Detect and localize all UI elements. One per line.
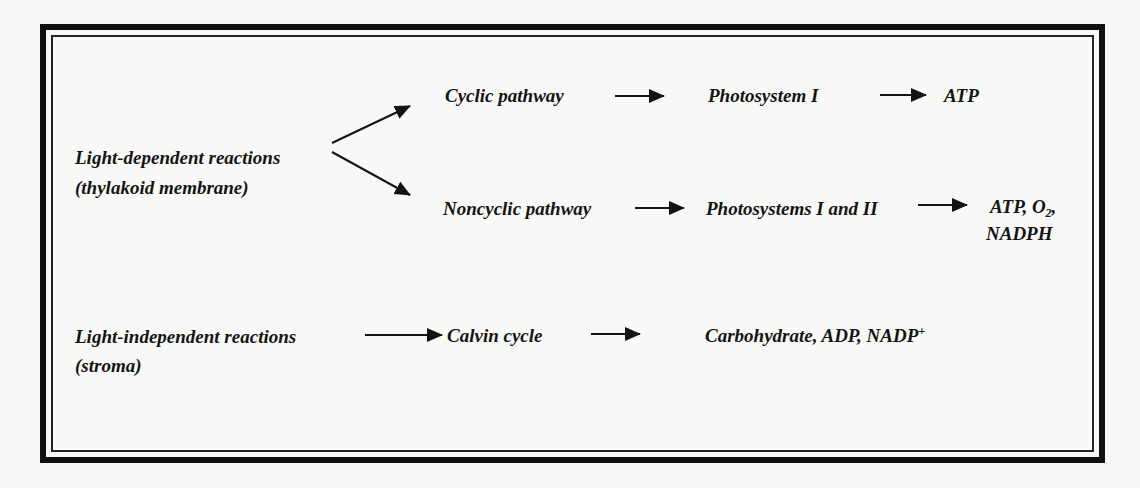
noncyclic-products-line2: NADPH [986,224,1053,243]
noncyclic-products-line1: ATP, O2, [990,197,1056,219]
branch-arrow-to-cyclic-icon [332,106,410,143]
arrow-layer [0,0,1140,488]
cyclic-pathway-label: Cyclic pathway [445,86,564,105]
noncyclic-pathway-label: Noncyclic pathway [443,199,591,218]
photosystems-i-ii-label: Photosystems I and II [706,199,878,218]
calvin-cycle-label: Calvin cycle [447,326,543,345]
calvin-products-label: Carbohydrate, ADP, NADP+ [705,325,925,345]
light-independent-title: Light-independent reactions [75,327,296,346]
calvin-products-text: Carbohydrate, ADP, NADP [705,325,918,346]
light-dependent-location: (thylakoid membrane) [75,178,249,197]
noncyclic-products-suffix: , [1052,196,1057,217]
light-dependent-title: Light-dependent reactions [75,148,280,167]
cyclic-product-atp: ATP [944,86,979,105]
noncyclic-products-prefix: ATP, O [990,196,1046,217]
branch-arrow-to-noncyclic-icon [332,152,410,195]
photosystem-i-label: Photosystem I [708,86,818,105]
nadp-plus-superscript: + [918,324,925,338]
light-independent-location: (stroma) [75,356,142,375]
